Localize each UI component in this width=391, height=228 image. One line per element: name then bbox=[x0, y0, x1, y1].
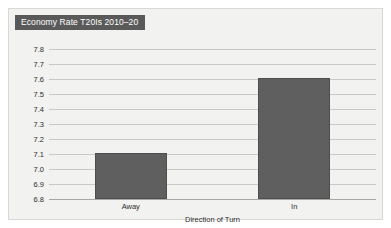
x-axis-tick-label: Away bbox=[122, 202, 140, 211]
gridline bbox=[49, 49, 376, 50]
y-axis-tick-label: 7.6 bbox=[34, 75, 44, 84]
plot-area: Direction of Turn 7.87.77.67.57.47.37.27… bbox=[49, 49, 376, 199]
y-axis-tick-label: 7.1 bbox=[34, 150, 44, 159]
y-axis-tick-label: 6.9 bbox=[34, 180, 44, 189]
chart-title: Economy Rate T20Is 2010–20 bbox=[15, 15, 145, 30]
y-axis-tick-label: 7.4 bbox=[34, 105, 44, 114]
gridline bbox=[49, 199, 376, 200]
y-axis-tick-label: 7.8 bbox=[34, 45, 44, 54]
chart-screenshot: Economy Rate T20Is 2010–20 Direction of … bbox=[0, 0, 391, 228]
gridline bbox=[49, 64, 376, 65]
y-axis-tick-label: 6.8 bbox=[34, 195, 44, 204]
bar-away bbox=[95, 153, 167, 200]
y-axis-tick-label: 7.3 bbox=[34, 120, 44, 129]
y-axis-tick-label: 7.5 bbox=[34, 90, 44, 99]
bar-in bbox=[258, 78, 330, 200]
x-axis-title: Direction of Turn bbox=[185, 215, 240, 224]
y-axis-tick-label: 7.0 bbox=[34, 165, 44, 174]
y-axis-tick-label: 7.7 bbox=[34, 60, 44, 69]
y-axis-tick-label: 7.2 bbox=[34, 135, 44, 144]
x-axis-tick-label: In bbox=[291, 202, 297, 211]
chart-frame: Economy Rate T20Is 2010–20 Direction of … bbox=[8, 8, 383, 220]
